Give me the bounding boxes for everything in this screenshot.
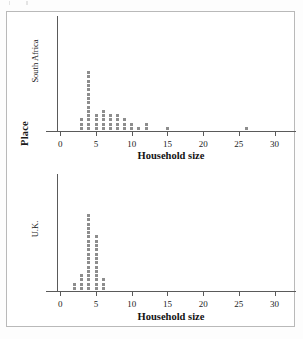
data-point-dot — [145, 123, 148, 126]
data-point-dot — [116, 118, 119, 121]
data-point-dot — [102, 118, 105, 121]
data-point-dot — [87, 283, 90, 286]
data-point-dot — [95, 127, 98, 130]
data-point-dot — [116, 123, 119, 126]
x-axis-tick — [60, 132, 61, 136]
data-point-dot — [116, 127, 119, 130]
x-axis-label-uk: Household size — [46, 311, 296, 322]
x-axis-tick-label: 10 — [120, 299, 144, 309]
x-axis-tick — [239, 132, 240, 136]
plot-area-south-africa: 051015202530 — [46, 14, 296, 132]
data-point-dot — [145, 127, 148, 130]
x-axis-tick — [203, 292, 204, 296]
data-point-dot — [80, 274, 83, 277]
data-point-dot — [87, 248, 90, 251]
data-point-dot — [95, 235, 98, 238]
y-axis-line — [57, 16, 58, 132]
x-axis-tick — [203, 132, 204, 136]
data-point-dot — [87, 278, 90, 281]
data-point-dot — [87, 114, 90, 117]
x-axis-tick-label: 25 — [227, 299, 251, 309]
x-axis-tick-label: 5 — [84, 299, 108, 309]
y-axis-line — [57, 174, 58, 292]
scan-artifact — [9, 1, 10, 5]
x-axis-tick-label: 20 — [191, 139, 215, 149]
data-point-dot — [95, 278, 98, 281]
data-point-dot — [73, 287, 76, 290]
data-point-dot — [87, 223, 90, 226]
data-point-dot — [87, 127, 90, 130]
x-axis-tick-label: 15 — [155, 299, 179, 309]
plot-area-uk: 051015202530 — [46, 172, 296, 292]
data-point-dot — [123, 118, 126, 121]
x-axis-tick — [239, 292, 240, 296]
data-point-dot — [87, 227, 90, 230]
data-point-dot — [102, 287, 105, 290]
data-point-dot — [137, 127, 140, 130]
data-point-dot — [87, 261, 90, 264]
x-axis-label-south-africa: Household size — [46, 150, 296, 161]
data-point-dot — [80, 118, 83, 121]
scan-artifact — [26, 1, 28, 5]
x-axis-tick-label: 25 — [227, 139, 251, 149]
data-point-dot — [87, 240, 90, 243]
data-point-dot — [87, 253, 90, 256]
data-point-dot — [95, 244, 98, 247]
x-axis-tick — [96, 132, 97, 136]
x-axis-tick — [275, 132, 276, 136]
data-point-dot — [87, 244, 90, 247]
data-point-dot — [87, 287, 90, 290]
data-point-dot — [73, 283, 76, 286]
data-point-dot — [95, 257, 98, 260]
x-axis-tick-label: 0 — [48, 139, 72, 149]
data-point-dot — [102, 110, 105, 113]
data-point-dot — [102, 283, 105, 286]
data-point-dot — [87, 80, 90, 83]
data-point-dot — [109, 114, 112, 117]
data-point-dot — [87, 231, 90, 234]
data-point-dot — [87, 71, 90, 74]
data-point-dot — [87, 235, 90, 238]
x-axis-tick-label: 15 — [155, 139, 179, 149]
x-axis-line — [46, 131, 296, 132]
data-point-dot — [80, 123, 83, 126]
data-point-dot — [102, 278, 105, 281]
data-point-dot — [245, 127, 248, 130]
data-point-dot — [102, 123, 105, 126]
x-axis-tick — [96, 292, 97, 296]
data-point-dot — [87, 106, 90, 109]
data-point-dot — [87, 118, 90, 121]
data-point-dot — [95, 248, 98, 251]
x-axis-tick — [132, 132, 133, 136]
data-point-dot — [87, 214, 90, 217]
data-point-dot — [166, 127, 169, 130]
data-point-dot — [95, 118, 98, 121]
data-point-dot — [95, 253, 98, 256]
data-point-dot — [87, 101, 90, 104]
x-axis-tick — [60, 292, 61, 296]
data-point-dot — [95, 283, 98, 286]
data-point-dot — [109, 127, 112, 130]
data-point-dot — [95, 123, 98, 126]
data-point-dot — [95, 274, 98, 277]
data-point-dot — [87, 123, 90, 126]
x-axis-line — [46, 291, 296, 292]
data-point-dot — [87, 97, 90, 100]
data-point-dot — [80, 278, 83, 281]
data-point-dot — [109, 123, 112, 126]
x-axis-tick — [275, 292, 276, 296]
data-point-dot — [95, 240, 98, 243]
data-point-dot — [87, 218, 90, 221]
data-point-dot — [95, 270, 98, 273]
data-point-dot — [95, 261, 98, 264]
data-point-dot — [123, 127, 126, 130]
data-point-dot — [87, 84, 90, 87]
panel-label-uk: U.K. — [30, 189, 40, 269]
data-point-dot — [80, 283, 83, 286]
data-point-dot — [95, 266, 98, 269]
data-point-dot — [87, 75, 90, 78]
data-point-dot — [87, 88, 90, 91]
figure-root: Place South Africa 051015202530 Househol… — [0, 0, 303, 339]
data-point-dot — [116, 114, 119, 117]
data-point-dot — [95, 114, 98, 117]
